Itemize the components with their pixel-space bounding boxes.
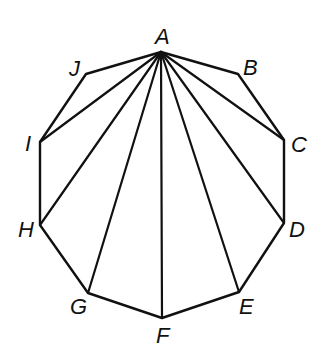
vertex-label-d: D bbox=[289, 217, 305, 242]
diagonal-ai bbox=[40, 52, 161, 142]
vertex-label-j: J bbox=[68, 56, 81, 81]
vertex-label-g: G bbox=[70, 294, 87, 319]
vertex-label-b: B bbox=[243, 55, 258, 80]
diagonal-ae bbox=[161, 52, 239, 292]
vertex-label-f: F bbox=[156, 323, 171, 348]
vertex-label-i: I bbox=[25, 131, 31, 156]
diagonal-ah bbox=[40, 52, 161, 225]
diagonal-ad bbox=[161, 52, 284, 223]
decagon-diagram: ABCDEFGHIJ bbox=[0, 0, 319, 352]
vertex-label-a: A bbox=[153, 24, 170, 49]
diagonal-af bbox=[161, 52, 162, 318]
diagonal-ag bbox=[88, 52, 161, 293]
diagonal-ac bbox=[161, 52, 284, 140]
vertex-label-h: H bbox=[18, 217, 34, 242]
vertex-label-c: C bbox=[291, 132, 307, 157]
vertex-label-e: E bbox=[239, 294, 254, 319]
